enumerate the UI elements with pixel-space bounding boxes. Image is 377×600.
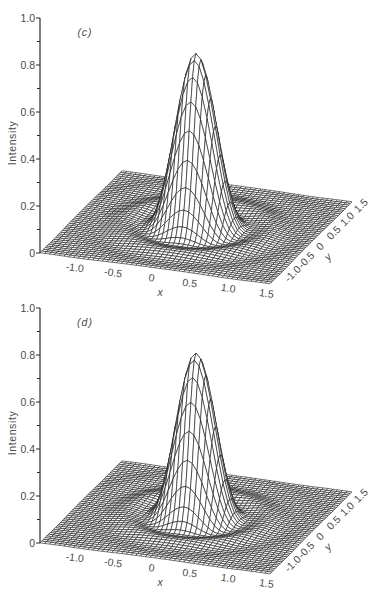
z-tick-label: 0 (29, 247, 35, 259)
z-axis-title: Intensity (6, 121, 18, 166)
x-tick-label: 1.5 (259, 286, 275, 300)
surface-cell (265, 281, 272, 283)
y-tick-label: 1.5 (351, 196, 370, 215)
x-tick-label: 0 (148, 271, 156, 284)
z-tick-label: 0 (29, 537, 35, 549)
figure: 00.20.40.60.81.0Intensity-1.0-0.500.51.0… (0, 0, 377, 600)
y-axis-title: y (321, 250, 334, 263)
surface-mesh (40, 54, 352, 284)
x-tick-label: 1.0 (220, 571, 236, 585)
panel-label: (c) (77, 26, 92, 38)
z-tick-label: 0.4 (20, 443, 35, 455)
x-tick-label: 0.5 (182, 566, 198, 580)
surface-cell (265, 571, 272, 574)
x-tick-label: -1.0 (65, 550, 85, 564)
x-tick-label: 1.0 (220, 281, 236, 295)
z-tick-label: 0.2 (20, 490, 35, 502)
panel-d-surface-plot: 00.20.40.60.81.0Intensity-1.0-0.500.51.0… (6, 302, 370, 590)
y-axis-title: y (321, 540, 334, 553)
x-tick-label: -0.5 (103, 265, 123, 279)
z-tick-label: 0.8 (20, 59, 35, 71)
x-axis-title: x (156, 286, 163, 298)
z-tick-label: 0.6 (20, 106, 35, 118)
z-tick-label: 0.4 (20, 153, 35, 165)
x-axis-title: x (156, 576, 163, 588)
x-tick-label: 0 (148, 561, 156, 574)
x-tick-label: 1.5 (259, 576, 275, 590)
y-tick-label: 1.5 (351, 486, 370, 505)
x-tick-label: 0.5 (182, 276, 198, 290)
z-tick-label: 1.0 (20, 12, 35, 24)
x-tick-label: -0.5 (103, 555, 123, 569)
z-tick-label: 0.6 (20, 396, 35, 408)
panel-label: (d) (77, 316, 93, 328)
panel-c-surface-plot: 00.20.40.60.81.0Intensity-1.0-0.500.51.0… (6, 12, 370, 300)
z-tick-label: 1.0 (20, 302, 35, 314)
z-tick-label: 0.2 (20, 200, 35, 212)
z-tick-label: 0.8 (20, 349, 35, 361)
x-tick-label: -1.0 (65, 260, 85, 274)
z-axis-title: Intensity (6, 411, 18, 456)
